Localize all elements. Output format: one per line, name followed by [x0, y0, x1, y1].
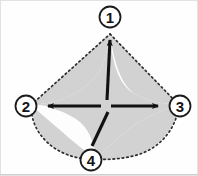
- vertex-2-text: 2: [22, 98, 30, 115]
- vertex-1-text: 1: [106, 9, 114, 26]
- vertex-label-2: 2: [16, 96, 37, 117]
- vertex-label-4: 4: [81, 150, 102, 171]
- figure-container: 1 2 3 4: [0, 0, 198, 176]
- vertex-label-1: 1: [100, 7, 121, 28]
- vertex-3-text: 3: [176, 98, 184, 115]
- geometric-figure: 1 2 3 4: [0, 0, 198, 176]
- shaded-region-group: [31, 34, 179, 159]
- vertex-4-text: 4: [87, 152, 96, 169]
- vertex-label-3: 3: [170, 96, 191, 117]
